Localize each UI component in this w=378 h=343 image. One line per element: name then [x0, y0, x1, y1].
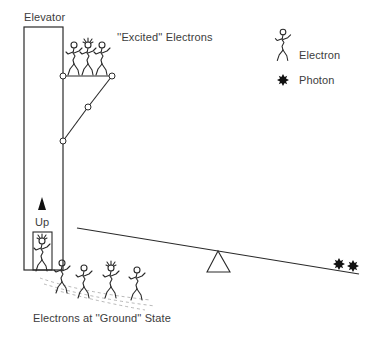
excited-electron-icon: [80, 38, 96, 75]
up-arrow-icon: [38, 197, 46, 210]
elevator-shaft: [24, 27, 63, 270]
ground-electron-icon: [129, 267, 145, 300]
legend-photon-label: Photon: [299, 74, 334, 86]
ground-electron-icon: [76, 265, 92, 298]
legend-photon-icon: [277, 74, 289, 86]
elevator-label: Elevator: [24, 11, 65, 23]
excited-electron-icon: [66, 42, 82, 75]
ground-state-label: Electrons at ''Ground'' State: [33, 312, 171, 324]
excited-electron-icon: [94, 42, 110, 75]
cabin-electron-icon: [34, 234, 50, 271]
ground-electron-icon: [103, 261, 119, 298]
photon-icon: [347, 260, 359, 272]
legend-electron-icon: [275, 29, 290, 60]
electron-elevator-diagram: Elevator ''Excited'' Electrons Up Electr…: [0, 0, 378, 343]
photon-icon: [333, 258, 345, 270]
motion-lines: [40, 278, 155, 310]
excited-electrons-label: ''Excited'' Electrons: [117, 31, 212, 43]
legend-electron-label: Electron: [299, 49, 340, 61]
seesaw-fulcrum: [207, 251, 230, 272]
up-label: Up: [35, 216, 49, 228]
ground-electron-icon: [54, 260, 70, 293]
